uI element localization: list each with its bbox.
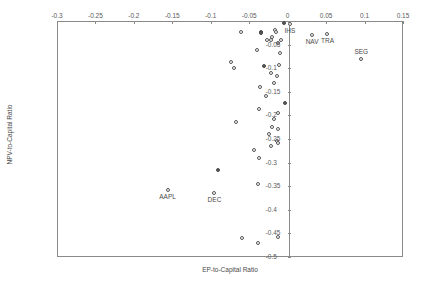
data-point (216, 168, 220, 172)
x-tick-label: 0.05 (320, 12, 333, 20)
data-point-nav (310, 33, 314, 37)
data-point (276, 111, 280, 115)
x-axis-title: EP-to-Capital Ratio (57, 266, 403, 273)
y-tick-mark (288, 45, 291, 46)
data-point (257, 156, 261, 160)
x-tick-mark (326, 21, 327, 24)
y-tick-mark (288, 233, 291, 234)
x-tick-label: 0.1 (360, 12, 369, 20)
data-point-dec (212, 191, 216, 195)
scatter-chart: IHSNAVTRASEGAAPLDEC -0.3-0.25-0.2-0.15-0… (0, 0, 422, 287)
x-tick-mark (211, 21, 212, 24)
plot-area: IHSNAVTRASEGAAPLDEC (57, 21, 403, 257)
data-point (283, 101, 287, 105)
x-tick-label: -0.25 (88, 12, 103, 20)
y-tick-label: -0.1 (266, 64, 277, 72)
x-tick-label: -0.15 (165, 12, 180, 20)
data-point (232, 66, 236, 70)
y-tick-mark (288, 139, 291, 140)
data-point (234, 120, 238, 124)
point-label-ihs: IHS (284, 27, 295, 35)
x-tick-label: -0.3 (51, 12, 62, 20)
y-tick-label: -0.3 (266, 159, 277, 167)
data-point (256, 241, 260, 245)
data-point (274, 30, 278, 34)
y-tick-mark (288, 68, 291, 69)
data-point (275, 74, 279, 78)
y-tick-label: -0.2 (266, 111, 277, 119)
data-point (276, 127, 280, 131)
point-label-tra: TRA (321, 37, 334, 45)
y-tick-label: -0.4 (266, 206, 277, 214)
data-point-tra (325, 32, 329, 36)
y-axis-title: NPV-to-Capital Ratio (6, 90, 13, 180)
x-tick-label: -0.05 (242, 12, 257, 20)
point-label-dec: DEC (208, 196, 222, 204)
y-tick-label: -0.15 (266, 88, 281, 96)
data-point (272, 81, 276, 85)
x-tick-label: 0 (286, 12, 290, 20)
data-point (259, 31, 263, 35)
y-tick-label: -0.45 (266, 229, 281, 237)
data-point (269, 144, 273, 148)
data-point-seg (359, 57, 363, 61)
data-point (258, 85, 262, 89)
x-tick-mark (249, 21, 250, 24)
x-tick-mark (403, 21, 404, 24)
x-tick-mark (172, 21, 173, 24)
data-point (229, 60, 233, 64)
data-point (277, 63, 281, 67)
x-tick-label: -0.2 (128, 12, 139, 20)
y-tick-mark (288, 115, 291, 116)
data-point (255, 48, 259, 52)
y-tick-mark (288, 257, 291, 258)
x-tick-mark (365, 21, 366, 24)
data-point (240, 236, 244, 240)
data-point (239, 30, 243, 34)
data-point-aapl (166, 188, 170, 192)
y-tick-label: -0.05 (266, 41, 281, 49)
y-tick-label: -0.35 (266, 182, 281, 190)
y-tick-label: -0.5 (266, 253, 277, 261)
x-tick-label: 0.15 (397, 12, 410, 20)
data-point (278, 51, 282, 55)
x-tick-label: -0.1 (205, 12, 216, 20)
y-tick-mark (288, 163, 291, 164)
point-label-seg: SEG (354, 48, 368, 56)
data-point (256, 182, 260, 186)
data-point (282, 21, 286, 25)
point-label-nav: NAV (306, 38, 319, 46)
y-tick-mark (288, 186, 291, 187)
x-tick-mark (57, 21, 58, 24)
y-tick-mark (288, 21, 291, 22)
point-label-aapl: AAPL (159, 193, 176, 201)
x-tick-mark (95, 21, 96, 24)
y-tick-label: -0.25 (266, 135, 281, 143)
y-tick-mark (288, 210, 291, 211)
data-point (257, 107, 261, 111)
x-tick-mark (134, 21, 135, 24)
y-tick-mark (288, 92, 291, 93)
data-point (270, 125, 274, 129)
data-point (252, 148, 256, 152)
